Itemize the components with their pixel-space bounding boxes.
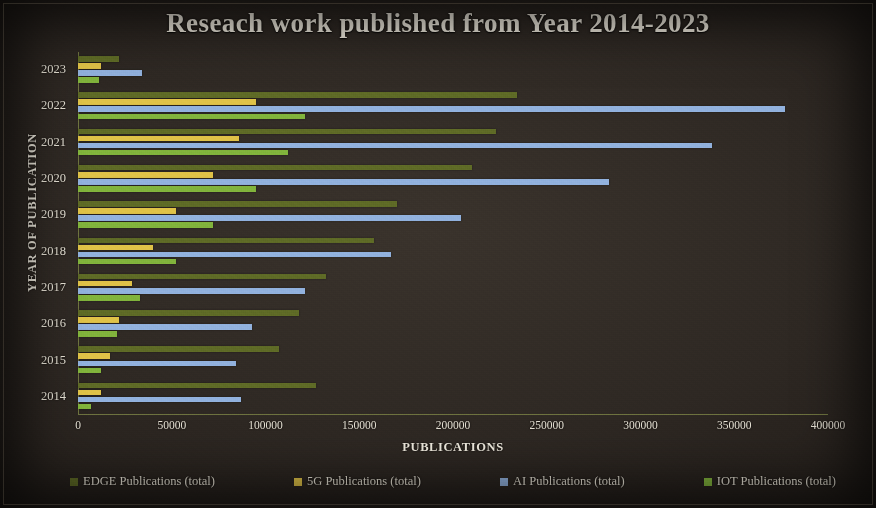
legend-item-ai[interactable]: AI Publications (total) xyxy=(500,474,625,489)
bar-5g-2014 xyxy=(78,390,101,396)
bar-group-2023 xyxy=(78,52,828,88)
x-tick-150000: 150000 xyxy=(342,419,377,431)
chart-title: Reseach work published from Year 2014-20… xyxy=(0,8,876,39)
y-tick-2020: 2020 xyxy=(41,171,66,186)
x-axis-ticks: 0500001000001500002000002500003000003500… xyxy=(78,419,828,435)
x-tick-300000: 300000 xyxy=(623,419,658,431)
legend-label-ai: AI Publications (total) xyxy=(513,474,625,489)
plot-area xyxy=(78,52,828,415)
y-tick-2019: 2019 xyxy=(41,207,66,222)
bar-5g-2018 xyxy=(78,245,153,251)
legend-item-iot[interactable]: IOT Publications (total) xyxy=(704,474,836,489)
legend-swatch-iot-icon xyxy=(704,478,712,486)
bar-5g-2023 xyxy=(78,63,101,69)
y-axis-ticks: 2014201520162017201820192020202120222023 xyxy=(0,52,72,415)
x-tick-50000: 50000 xyxy=(157,419,186,431)
bar-group-2014 xyxy=(78,379,828,415)
bar-iot-2015 xyxy=(78,368,101,374)
chart-legend: EDGE Publications (total)5G Publications… xyxy=(70,474,836,489)
bar-edge-2021 xyxy=(78,129,496,135)
bar-ai-2021 xyxy=(78,143,712,149)
bar-edge-2016 xyxy=(78,310,299,316)
legend-swatch-edge-icon xyxy=(70,478,78,486)
bar-iot-2014 xyxy=(78,404,91,410)
bar-group-2018 xyxy=(78,234,828,270)
x-tick-250000: 250000 xyxy=(530,419,565,431)
legend-swatch-5g-icon xyxy=(294,478,302,486)
bar-group-2016 xyxy=(78,306,828,342)
bar-iot-2017 xyxy=(78,295,140,301)
bar-iot-2019 xyxy=(78,222,213,228)
bar-group-2020 xyxy=(78,161,828,197)
bar-group-2015 xyxy=(78,342,828,378)
bar-5g-2019 xyxy=(78,208,176,214)
y-tick-2016: 2016 xyxy=(41,316,66,331)
bar-5g-2015 xyxy=(78,353,110,359)
bar-edge-2023 xyxy=(78,56,119,62)
bar-5g-2022 xyxy=(78,99,256,105)
x-axis-label: PUBLICATIONS xyxy=(78,440,828,455)
legend-label-edge: EDGE Publications (total) xyxy=(83,474,215,489)
bar-ai-2020 xyxy=(78,179,609,185)
y-tick-2014: 2014 xyxy=(41,389,66,404)
y-tick-2017: 2017 xyxy=(41,280,66,295)
x-tick-200000: 200000 xyxy=(436,419,471,431)
bar-ai-2018 xyxy=(78,252,391,258)
y-tick-2018: 2018 xyxy=(41,244,66,259)
bar-group-2022 xyxy=(78,88,828,124)
bar-ai-2023 xyxy=(78,70,142,76)
bar-5g-2021 xyxy=(78,136,239,142)
bar-iot-2018 xyxy=(78,259,176,265)
bar-ai-2014 xyxy=(78,397,241,403)
bar-5g-2016 xyxy=(78,317,119,323)
bar-iot-2023 xyxy=(78,77,99,83)
legend-item-5g[interactable]: 5G Publications (total) xyxy=(294,474,421,489)
x-tick-350000: 350000 xyxy=(717,419,752,431)
legend-label-5g: 5G Publications (total) xyxy=(307,474,421,489)
bar-edge-2014 xyxy=(78,383,316,389)
bar-ai-2017 xyxy=(78,288,305,294)
bar-5g-2020 xyxy=(78,172,213,178)
bar-edge-2015 xyxy=(78,346,279,352)
bar-ai-2015 xyxy=(78,361,236,367)
bar-edge-2017 xyxy=(78,274,326,280)
legend-label-iot: IOT Publications (total) xyxy=(717,474,836,489)
bar-iot-2022 xyxy=(78,114,305,120)
bar-ai-2016 xyxy=(78,324,252,330)
bar-ai-2019 xyxy=(78,215,461,221)
y-tick-2021: 2021 xyxy=(41,135,66,150)
x-tick-400000: 400000 xyxy=(811,419,846,431)
bar-edge-2022 xyxy=(78,92,517,98)
bar-iot-2020 xyxy=(78,186,256,192)
bar-5g-2017 xyxy=(78,281,132,287)
chart-slide: Reseach work published from Year 2014-20… xyxy=(0,0,876,508)
y-tick-2022: 2022 xyxy=(41,98,66,113)
x-tick-0: 0 xyxy=(75,419,81,431)
x-tick-100000: 100000 xyxy=(248,419,283,431)
bar-edge-2020 xyxy=(78,165,472,171)
legend-item-edge[interactable]: EDGE Publications (total) xyxy=(70,474,215,489)
bar-group-2019 xyxy=(78,197,828,233)
bar-ai-2022 xyxy=(78,106,785,112)
bar-edge-2019 xyxy=(78,201,397,207)
bar-iot-2016 xyxy=(78,331,117,337)
bar-edge-2018 xyxy=(78,238,374,244)
bar-group-2017 xyxy=(78,270,828,306)
y-tick-2023: 2023 xyxy=(41,62,66,77)
y-tick-2015: 2015 xyxy=(41,353,66,368)
legend-swatch-ai-icon xyxy=(500,478,508,486)
bar-group-2021 xyxy=(78,125,828,161)
bar-iot-2021 xyxy=(78,150,288,156)
